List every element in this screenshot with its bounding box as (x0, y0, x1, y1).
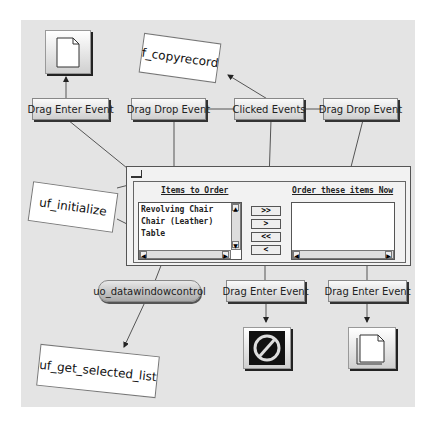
move-buttons: >> > << < (251, 206, 281, 258)
horizontal-scrollbar[interactable] (139, 250, 231, 259)
items-listbox[interactable]: Revolving Chair Chair (Leather) Table ▲ … (138, 202, 242, 260)
multi-document-icon-box (348, 327, 396, 369)
drag-drop-event-right: Drag Drop Event (323, 98, 398, 120)
scroll-right-icon[interactable]: ▶ (385, 251, 392, 258)
drag-enter-event-top-left: Drag Enter Event (32, 98, 109, 120)
drag-enter-event-bottom-right: Drag Enter Event (328, 280, 407, 302)
remove-all-button[interactable]: << (251, 232, 281, 242)
scroll-left-icon[interactable]: ◀ (140, 251, 147, 258)
scroll-up-icon[interactable]: ▲ (232, 204, 239, 211)
drag-drop-event-left: Drag Drop Event (131, 98, 206, 120)
no-drop-icon-box (243, 327, 291, 369)
drag-enter-event-bottom-mid: Drag Enter Event (226, 280, 305, 302)
clicked-events: Clicked Events (234, 98, 304, 120)
scroll-left-icon[interactable]: ◀ (293, 251, 300, 258)
document-icon-box (45, 30, 91, 74)
no-drop-icon (244, 328, 290, 368)
window-body: Items to Order Order these items Now Rev… (133, 181, 406, 263)
document-icon (46, 31, 90, 73)
order-window: Items to Order Order these items Now Rev… (126, 166, 411, 266)
uo-datawindowcontrol: uo_datawindowcontrol (98, 280, 201, 302)
order-now-title: Order these items Now (292, 186, 393, 195)
control-menu-icon[interactable] (131, 170, 142, 178)
list-item[interactable]: Table (141, 229, 165, 238)
list-item[interactable]: Chair (Leather) (141, 217, 213, 226)
list-item[interactable]: Revolving Chair (141, 205, 213, 214)
scroll-right-icon[interactable]: ▶ (222, 251, 229, 258)
remove-button[interactable]: < (251, 245, 281, 255)
items-to-order-title: Items to Order (161, 186, 228, 195)
order-listbox[interactable]: ◀ ▶ (291, 202, 395, 260)
add-all-button[interactable]: >> (251, 206, 281, 216)
horizontal-scrollbar[interactable] (292, 250, 394, 259)
scroll-down-icon[interactable]: ▼ (232, 241, 239, 248)
add-button[interactable]: > (251, 219, 281, 229)
multi-document-icon (349, 328, 395, 368)
